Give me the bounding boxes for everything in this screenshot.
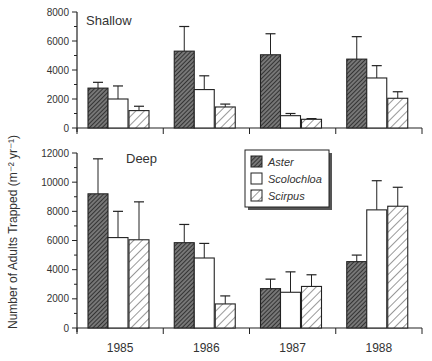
y-tick-label: 6000 bbox=[47, 36, 70, 47]
bar-scirpus-1987 bbox=[302, 119, 322, 128]
panel-label-deep: Deep bbox=[126, 151, 157, 166]
bar-scirpus-1986 bbox=[215, 304, 235, 328]
bar-aster-1987 bbox=[261, 289, 281, 328]
bar-scirpus-1986 bbox=[215, 107, 235, 128]
bar-aster-1985 bbox=[88, 194, 108, 328]
y-tick-label: 0 bbox=[63, 323, 69, 334]
bar-scolochloa-1988 bbox=[367, 78, 387, 128]
svg-text:Number of Adults Trapped (m⁻²: Number of Adults Trapped (m⁻² yr⁻¹) bbox=[6, 135, 20, 329]
y-tick-label: 2000 bbox=[47, 94, 70, 105]
bar-aster-1987 bbox=[261, 55, 281, 128]
y-tick-label: 8000 bbox=[47, 206, 70, 217]
bar-scirpus-1985 bbox=[129, 240, 149, 328]
y-tick-label: 4000 bbox=[47, 264, 70, 275]
bar-aster-1986 bbox=[174, 243, 194, 328]
legend-swatch-scolochloa bbox=[251, 173, 262, 184]
x-axis-labels: 1985198619871988 bbox=[107, 341, 393, 355]
bar-scirpus-1988 bbox=[388, 98, 408, 128]
y-tick-label: 4000 bbox=[47, 65, 70, 76]
y-tick-label: 6000 bbox=[47, 235, 70, 246]
y-tick-label: 10000 bbox=[41, 177, 69, 188]
legend-label-aster: Aster bbox=[267, 156, 295, 168]
y-tick-label: 8000 bbox=[47, 7, 70, 18]
bar-scolochloa-1985 bbox=[108, 99, 128, 128]
bar-scirpus-1988 bbox=[388, 206, 408, 328]
x-tick-label-1987: 1987 bbox=[279, 341, 306, 355]
y-tick-label: 0 bbox=[63, 123, 69, 134]
bar-scolochloa-1987 bbox=[281, 116, 301, 128]
legend-swatch-scirpus bbox=[251, 190, 262, 201]
bar-scolochloa-1987 bbox=[281, 292, 301, 328]
x-tick-label-1986: 1986 bbox=[193, 341, 220, 355]
bar-scolochloa-1985 bbox=[108, 238, 128, 328]
panel-label-shallow: Shallow bbox=[86, 13, 132, 28]
y-tick-label: 12000 bbox=[41, 148, 69, 159]
x-tick-label-1985: 1985 bbox=[107, 341, 134, 355]
bar-aster-1986 bbox=[174, 51, 194, 128]
bar-scirpus-1985 bbox=[129, 111, 149, 128]
bar-chart: Number of Adults Trapped (m⁻² yr⁻¹) 0200… bbox=[0, 0, 432, 361]
legend: Aster Scolochloa Scirpus bbox=[245, 150, 332, 210]
legend-label-scirpus: Scirpus bbox=[268, 190, 305, 202]
legend-label-scolochloa: Scolochloa bbox=[268, 173, 322, 185]
bar-scolochloa-1986 bbox=[194, 90, 214, 128]
y-axis-label: Number of Adults Trapped (m⁻² yr⁻¹) bbox=[6, 135, 20, 329]
bar-scolochloa-1986 bbox=[194, 258, 214, 328]
bar-aster-1988 bbox=[347, 59, 367, 128]
deep-panel: 020004000600080001000012000 bbox=[41, 148, 422, 335]
y-tick-label: 2000 bbox=[47, 293, 70, 304]
x-tick-label-1988: 1988 bbox=[366, 341, 393, 355]
bar-aster-1988 bbox=[347, 262, 367, 328]
legend-swatch-aster bbox=[251, 156, 262, 167]
bar-scirpus-1987 bbox=[302, 286, 322, 328]
bar-aster-1985 bbox=[88, 88, 108, 128]
bar-scolochloa-1988 bbox=[367, 210, 387, 328]
